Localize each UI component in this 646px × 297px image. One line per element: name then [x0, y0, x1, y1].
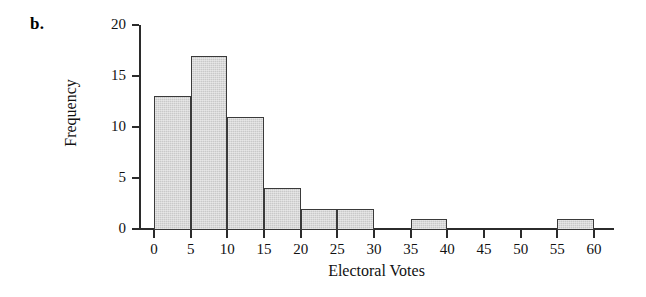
- y-tick-label: 10: [92, 119, 126, 134]
- x-tick-mark: [520, 230, 522, 238]
- y-tick-label: 5: [92, 170, 126, 185]
- x-tick-label: 20: [281, 241, 321, 258]
- x-tick-label: 55: [537, 241, 577, 258]
- x-tick-mark: [226, 230, 228, 238]
- x-tick-mark: [373, 230, 375, 238]
- y-axis-line: [139, 25, 141, 230]
- x-tick-label: 25: [317, 241, 357, 258]
- x-tick-mark: [483, 230, 485, 238]
- x-tick-label: 30: [354, 241, 394, 258]
- x-tick-label: 40: [427, 241, 467, 258]
- x-tick-mark: [410, 230, 412, 238]
- x-tick-mark: [153, 230, 155, 238]
- y-tick-mark: [132, 126, 139, 128]
- y-tick-mark: [132, 24, 139, 26]
- histogram-bar: [191, 56, 228, 230]
- x-tick-mark: [446, 230, 448, 238]
- x-tick-label: 45: [464, 241, 504, 258]
- histogram-figure: b. 05101520 051015202530354045505560 Fre…: [0, 0, 646, 297]
- y-tick-mark: [132, 228, 139, 230]
- x-tick-label: 15: [244, 241, 284, 258]
- histogram-bar: [411, 219, 448, 230]
- y-axis-label: Frequency: [62, 33, 80, 193]
- plot-area: 05101520 051015202530354045505560 Freque…: [0, 0, 646, 297]
- x-tick-label: 60: [574, 241, 614, 258]
- histogram-bar: [227, 117, 264, 230]
- y-tick-label: 15: [92, 68, 126, 83]
- y-tick-label: 20: [92, 17, 126, 32]
- x-tick-mark: [593, 230, 595, 238]
- x-tick-label: 35: [391, 241, 431, 258]
- x-tick-mark: [190, 230, 192, 238]
- histogram-bar: [557, 219, 594, 230]
- x-tick-label: 10: [207, 241, 247, 258]
- x-tick-mark: [300, 230, 302, 238]
- y-tick-label: 0: [92, 221, 126, 236]
- x-tick-label: 50: [501, 241, 541, 258]
- x-tick-label: 0: [134, 241, 174, 258]
- y-tick-mark: [132, 75, 139, 77]
- x-tick-mark: [336, 230, 338, 238]
- histogram-bar: [301, 209, 338, 230]
- y-tick-mark: [132, 177, 139, 179]
- histogram-bar: [264, 188, 301, 230]
- histogram-bar: [337, 209, 374, 230]
- x-tick-mark: [263, 230, 265, 238]
- x-tick-label: 5: [171, 241, 211, 258]
- histogram-bar: [154, 96, 191, 230]
- x-tick-mark: [556, 230, 558, 238]
- x-axis-label: Electoral Votes: [139, 262, 614, 280]
